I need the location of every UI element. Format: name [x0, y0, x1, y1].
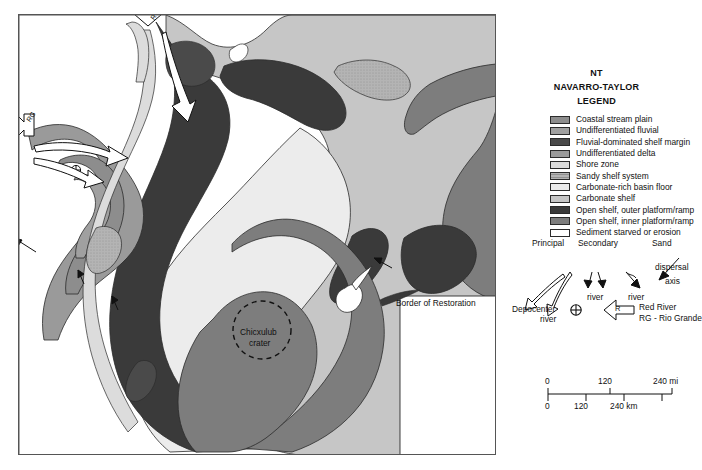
secondary-river-caption-line2: river [587, 292, 603, 302]
legend-item-label: Sandy shelf system [576, 172, 649, 181]
legend-item-label: Coastal stream plain [576, 115, 652, 124]
legend-item: Undifferentiated delta [550, 148, 693, 159]
legend-item: Coastal stream plain [550, 114, 693, 125]
legend-item-label: Carbonate shelf [576, 194, 635, 203]
map-panel: Border of Restoration Chicxulub crater R… [18, 14, 496, 455]
legend-swatch [550, 138, 570, 146]
red-river-caption: Red River [639, 302, 676, 312]
secondary-river-symbol-b [626, 272, 640, 288]
legend-title-line-1: NT [500, 66, 693, 80]
scale-km-tick-1: 120 [574, 401, 588, 411]
legend-title-line-2: NAVARRO-TAYLOR [500, 80, 693, 94]
legend-item: Shore zone [550, 159, 693, 170]
restoration-cutout [400, 296, 496, 455]
legend-title: NT NAVARRO-TAYLOR LEGEND [500, 66, 693, 108]
legend-swatch [550, 116, 570, 124]
scale-mi-tick-1: 120 [598, 376, 612, 386]
symbol-key: Principal river Secondary river river Sa… [500, 236, 693, 326]
chicxulub-crater-label-line2: crater [249, 338, 270, 348]
legend-item-label: Shore zone [576, 160, 619, 169]
depocenter-symbol [571, 305, 581, 315]
rio-grande-caption: RG - Rio Grande [639, 313, 702, 323]
sand-caption-line3: axis [665, 276, 680, 286]
legend-item: Open shelf, inner platform/ramp [550, 216, 693, 227]
legend-item: Carbonate-rich basin floor [550, 182, 693, 193]
legend-swatch [550, 127, 570, 135]
legend-swatch [550, 150, 570, 158]
secondary-river-symbol-a [584, 272, 606, 288]
legend-panel: NT NAVARRO-TAYLOR LEGEND Coastal stream … [500, 14, 693, 455]
legend-swatch [550, 161, 570, 169]
scale-km-tick-2: 240 km [610, 401, 637, 411]
scale-km-tick-0: 0 [545, 401, 550, 411]
secondary-river-caption-line1: Secondary [578, 238, 618, 248]
scale-mi-tick-0: 0 [545, 376, 550, 386]
principal-river-caption-line1: Principal [532, 238, 564, 248]
legend-item: Carbonate shelf [550, 193, 693, 204]
legend-swatch [550, 172, 570, 180]
sand-caption-line2: dispersal [655, 262, 689, 272]
legend-swatch [550, 183, 570, 191]
depocenter-caption: Depocenter [512, 304, 555, 314]
legend-item: Open shelf, outer platform/ramp [550, 204, 693, 215]
legend-item-label: Open shelf, outer platform/ramp [576, 206, 694, 215]
legend-swatch [550, 217, 570, 225]
legend-item: Fluvial-dominated shelf margin [550, 137, 693, 148]
scale-mi-tick-2: 240 mi [653, 376, 678, 386]
legend-swatch [550, 195, 570, 203]
map-facies-layers [18, 14, 496, 455]
scale-bar: 0 120 240 mi 0 120 240 km [540, 376, 690, 422]
legend-item-label: Carbonate-rich basin floor [576, 183, 672, 192]
river-key-letter: R [615, 304, 620, 313]
legend-swatch [550, 206, 570, 214]
border-of-restoration-label: Border of Restoration [396, 298, 476, 308]
legend-item-label: Open shelf, inner platform/ramp [576, 217, 694, 226]
legend-item-label: Undifferentiated delta [576, 149, 655, 158]
map-graphic [18, 14, 496, 455]
sand-caption-line1: Sand [652, 238, 672, 248]
legend-item-label: Fluvial-dominated shelf margin [576, 138, 690, 147]
legend-title-line-3: LEGEND [500, 94, 693, 108]
legend-item-list: Coastal stream plain Undifferentiated fl… [500, 114, 693, 238]
legend-item: Sandy shelf system [550, 170, 693, 181]
chicxulub-crater-label-line1: Chicxulub [240, 327, 277, 337]
legend-item: Undifferentiated fluvial [550, 125, 693, 136]
secondary-river-alt-caption: river [628, 292, 644, 302]
principal-river-caption-line2: river [540, 314, 556, 324]
legend-item-label: Undifferentiated fluvial [576, 126, 659, 135]
